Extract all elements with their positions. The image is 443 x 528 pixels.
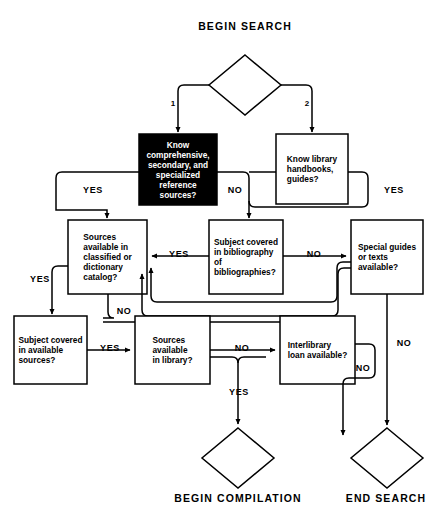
node-special-guides-text: Special guides or texts available? — [358, 242, 416, 272]
begin-compilation-label: BEGIN COMPILATION — [160, 492, 316, 504]
node-in-library-text: Sources available in library? — [152, 335, 192, 365]
node-know-handbooks[interactable]: Know library handbooks, guides? — [278, 136, 346, 202]
node-available-sources[interactable]: Subject covered in available sources? — [15, 318, 86, 382]
node-interlibrary[interactable]: Interlibrary loan available? — [282, 318, 353, 382]
edge-label-handbooks-yes: YES — [379, 185, 409, 196]
branch-number-2: 2 — [300, 99, 314, 108]
node-bibliography[interactable]: Subject covered in bibliography of bibli… — [210, 222, 282, 292]
node-interlibrary-text: Interlibrary loan available? — [288, 340, 347, 360]
edge-right-return-top — [429, 210, 435, 252]
node-available-sources-text: Subject covered in available sources? — [18, 335, 82, 365]
node-know-handbooks-text: Know library handbooks, guides? — [287, 154, 337, 184]
node-catalog-text: Sources available in classified or dicti… — [83, 232, 131, 282]
edge-label-ref-no: NO — [222, 185, 248, 196]
node-special-guides[interactable]: Special guides or texts available? — [353, 222, 421, 292]
node-in-library[interactable]: Sources available in library? — [137, 318, 208, 382]
edge-label-special-no: NO — [391, 338, 417, 349]
edge-label-catalog-yes: YES — [25, 274, 55, 285]
edge-label-library-no: NO — [229, 343, 255, 354]
edge-label-biblio-no: NO — [301, 249, 327, 260]
begin-search-label: BEGIN SEARCH — [173, 20, 317, 32]
node-know-reference-sources[interactable]: Know comprehensive, secondary, and speci… — [141, 136, 215, 203]
edge-label-ref-yes: YES — [78, 185, 108, 196]
edge-branch-1 — [178, 85, 209, 132]
edge-label-biblio-yes: YES — [164, 249, 194, 260]
branch-number-1: 1 — [166, 99, 180, 108]
edge-label-catalog-no: NO — [111, 306, 137, 317]
edge-branch-2 — [281, 85, 312, 132]
edge-label-interlibrary-no: NO — [350, 363, 376, 374]
begin-search-diamond — [209, 55, 281, 115]
edge-label-library-yes: YES — [224, 387, 254, 398]
edge-ref-yes-2 — [56, 201, 107, 218]
node-know-reference-sources-text: Know comprehensive, secondary, and speci… — [145, 140, 210, 200]
flowchart-canvas: BEGIN SEARCH BEGIN COMPILATION END SEARC… — [0, 0, 443, 528]
edge-library-yes-a — [210, 357, 238, 372]
node-bibliography-text: Subject covered in bibliography of bibli… — [214, 237, 278, 277]
end-search-label: END SEARCH — [330, 492, 442, 504]
edge-label-avail-yes: YES — [95, 343, 125, 354]
begin-compilation-diamond — [202, 428, 274, 488]
node-catalog[interactable]: Sources available in classified or dicti… — [70, 222, 145, 292]
end-search-diamond — [351, 428, 423, 488]
edge-library-yes-b — [238, 357, 266, 363]
